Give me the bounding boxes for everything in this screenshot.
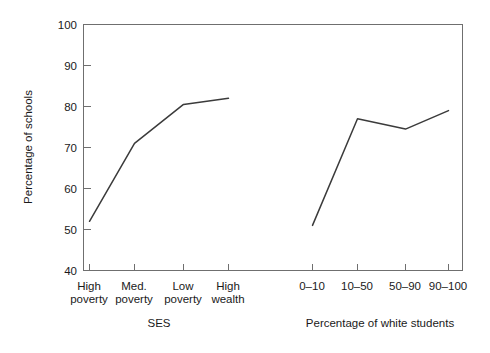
right-x-axis-ticks <box>313 264 449 271</box>
plot-frame <box>84 25 463 271</box>
x-tick-label-0-10: 0–10 <box>299 280 325 292</box>
x-tick-label-high-wealth-line1: High <box>216 280 240 292</box>
line-chart: 100 90 80 70 60 50 40 Percentage of scho… <box>0 0 490 353</box>
left-x-axis-tick-labels: High poverty Med. poverty Low poverty Hi… <box>70 280 244 305</box>
y-tick-label-100: 100 <box>58 19 77 31</box>
y-tick-label-80: 80 <box>64 101 77 113</box>
x-tick-label-10-50: 10–50 <box>341 280 373 292</box>
x-tick-label-low-poverty-line1: Low <box>172 280 194 292</box>
right-x-axis-tick-labels: 0–10 10–50 50–90 90–100 <box>299 280 467 292</box>
x-tick-label-90-100: 90–100 <box>429 280 467 292</box>
y-tick-label-60: 60 <box>64 183 77 195</box>
y-axis-ticks <box>84 25 91 271</box>
left-x-axis-title: SES <box>147 317 170 329</box>
chart-figure: 100 90 80 70 60 50 40 Percentage of scho… <box>0 0 490 353</box>
y-tick-label-70: 70 <box>64 142 77 154</box>
y-tick-label-40: 40 <box>64 265 77 277</box>
y-tick-label-50: 50 <box>64 224 77 236</box>
left-x-axis-ticks <box>90 264 229 271</box>
x-tick-label-low-poverty-line2: poverty <box>164 293 202 305</box>
x-tick-label-50-90: 50–90 <box>389 280 421 292</box>
x-tick-label-med-poverty-line1: Med. <box>121 280 147 292</box>
series-line-white-students <box>313 111 449 226</box>
x-tick-label-high-poverty-line1: High <box>77 280 101 292</box>
y-axis-tick-labels: 100 90 80 70 60 50 40 <box>58 19 77 277</box>
series-line-ses <box>90 98 229 221</box>
x-tick-label-high-wealth-line2: wealth <box>210 293 244 305</box>
x-tick-label-high-poverty-line2: poverty <box>70 293 108 305</box>
y-tick-label-90: 90 <box>64 60 77 72</box>
right-x-axis-title: Percentage of white students <box>306 317 455 329</box>
x-tick-label-med-poverty-line2: poverty <box>115 293 153 305</box>
y-axis-title: Percentage of schools <box>22 90 34 204</box>
